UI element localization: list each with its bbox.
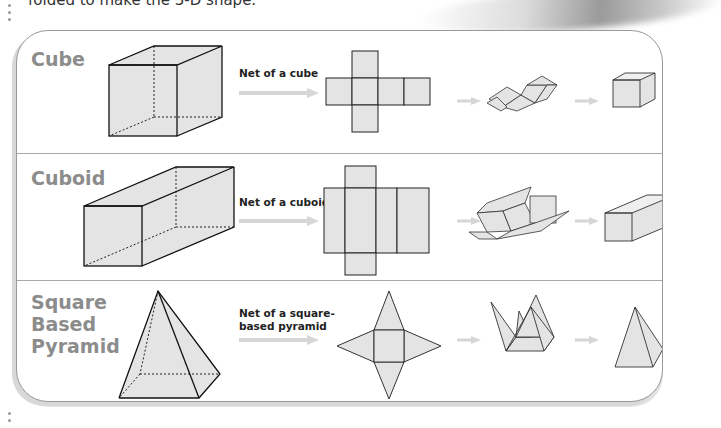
shape-name-line: Pyramid — [31, 335, 120, 357]
arrow-icon — [239, 88, 319, 98]
net-label-cube: Net of a cube — [239, 67, 318, 80]
margin-dots-bottom — [8, 412, 12, 426]
net-label-square-based-pyramid: Net of a square- based pyramid — [239, 307, 335, 333]
shape-name-line: Square — [31, 291, 120, 313]
pyramid-3d-illustration — [119, 291, 223, 401]
cube-folded-illustration — [613, 72, 657, 110]
cube-folding-illustration — [487, 73, 567, 113]
row-cube: Cube Net of a cube — [17, 31, 662, 153]
net-label-line: based pyramid — [239, 320, 335, 333]
arrow-icon — [575, 97, 599, 105]
shape-name-cube: Cube — [31, 48, 85, 70]
net-label-cuboid: Net of a cuboid — [239, 196, 329, 209]
arrow-icon — [239, 335, 319, 345]
intro-text: folded to make the 3-D shape. — [28, 0, 256, 9]
row-square-based-pyramid: Square Based Pyramid Net of a square- ba… — [17, 281, 662, 401]
cuboid-net-illustration — [324, 166, 432, 278]
arrow-icon — [457, 97, 481, 105]
cube-net-illustration — [326, 51, 432, 133]
margin-dots-top — [8, 4, 12, 25]
shape-name-square-based-pyramid: Square Based Pyramid — [31, 291, 120, 357]
arrow-icon — [575, 217, 599, 225]
arrow-icon — [575, 336, 599, 344]
pyramid-net-illustration — [337, 291, 443, 401]
cube-3d-illustration — [109, 45, 229, 141]
cuboid-folding-illustration — [469, 187, 579, 247]
pyramid-folded-illustration — [615, 307, 663, 369]
arrow-icon — [239, 216, 319, 226]
cuboid-3d-illustration — [84, 167, 244, 267]
row-cuboid: Cuboid Net of a cuboid — [17, 154, 662, 279]
net-label-line: Net of a square- — [239, 307, 335, 320]
arrow-icon — [457, 336, 481, 344]
shape-name-line: Based — [31, 313, 120, 335]
cuboid-folded-illustration — [605, 195, 663, 243]
pyramid-folding-illustration — [491, 293, 557, 353]
nets-panel: Cube Net of a cube — [16, 30, 663, 402]
